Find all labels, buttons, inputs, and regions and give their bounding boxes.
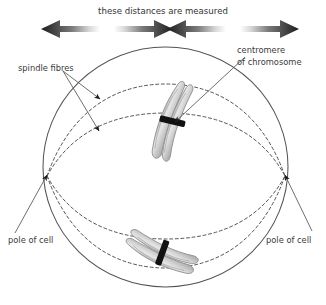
arrow-left-icon <box>41 20 100 38</box>
page-title: these distances are measured <box>98 6 228 16</box>
arrow-left-icon <box>167 20 226 38</box>
diagram-canvas: these distances are measured spindle fib… <box>0 0 326 305</box>
measurement-arrows <box>41 20 299 38</box>
leader-pole-left <box>15 175 47 233</box>
label-pole-left: pole of cell <box>8 235 53 245</box>
leader-pole-right <box>285 175 312 231</box>
label-centromere-line1: centromere <box>237 45 285 55</box>
label-centromere-line2: of chromosome <box>237 57 302 67</box>
arrow-right-icon <box>114 20 173 38</box>
label-pole-right: pole of cell <box>266 235 311 245</box>
label-spindle-fibres: spindle fibres <box>18 63 74 73</box>
arrow-right-icon <box>240 20 299 38</box>
